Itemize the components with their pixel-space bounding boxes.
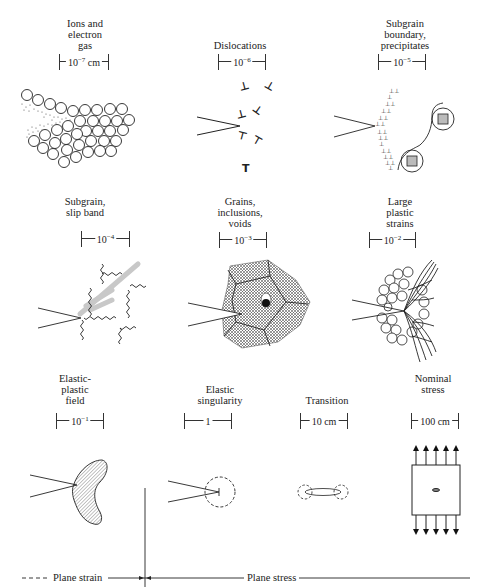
nominal-stress-illustration: [400, 445, 480, 545]
panel-label: Dislocations: [190, 40, 290, 51]
panel-label: Elastic singularity: [170, 384, 270, 406]
svg-text:⊥: ⊥: [235, 107, 248, 122]
scale-bar: 10−3: [219, 232, 267, 246]
panel-label: Large plastic strains: [355, 196, 445, 229]
scale-bar: 10−5: [378, 54, 426, 68]
label-line: stress: [393, 384, 473, 395]
svg-text:⊥: ⊥: [250, 102, 266, 118]
scale-bar: 10−2: [369, 232, 416, 246]
svg-text:⊥⊥: ⊥⊥: [375, 120, 385, 127]
label-line: Subgrain,: [40, 196, 130, 207]
label-line: precipitates: [360, 40, 450, 51]
svg-text:T: T: [242, 162, 250, 175]
plastic-zone-illustration: [0, 460, 160, 550]
label-line: Nominal: [393, 373, 473, 384]
ion-lattice-illustration: [0, 90, 160, 190]
label-line: field: [35, 395, 115, 406]
scale-bar: 100 cm: [411, 413, 459, 427]
label-line: singularity: [170, 395, 270, 406]
large-plastic-illustration: [320, 260, 484, 370]
label-line: strains: [355, 218, 445, 229]
label-line: Large: [355, 196, 445, 207]
svg-text:⊥⊥: ⊥⊥: [385, 100, 395, 107]
panel-label: Ions and electron gas: [40, 18, 130, 51]
label-line: Transition: [287, 395, 367, 406]
label-line: Grains,: [195, 196, 285, 207]
label-line: boundary,: [360, 29, 450, 40]
scale-bar: 1: [184, 413, 232, 427]
panel-label: Transition: [287, 395, 367, 406]
svg-text:⊥: ⊥: [388, 164, 393, 171]
label-line: Elastic-: [35, 373, 115, 384]
label-line: Dislocations: [190, 40, 290, 51]
transition-illustration: [295, 475, 365, 525]
panel-label: Elastic- plastic field: [35, 373, 115, 406]
panel-label: Subgrain, slip band: [40, 196, 130, 218]
label-line: plastic: [35, 384, 115, 395]
scale-bar: 10−7 cm: [59, 54, 109, 68]
label-line: gas: [40, 40, 130, 51]
scale-bar: 10−4: [81, 231, 130, 245]
plane-stress-label: Plane stress: [244, 572, 299, 584]
svg-text:⊥: ⊥: [238, 79, 251, 94]
plane-strain-label: Plane strain: [50, 572, 105, 584]
svg-text:⊥: ⊥: [250, 132, 265, 148]
elastic-singularity-illustration: [160, 460, 260, 530]
panel-label: Subgrain boundary, precipitates: [360, 18, 450, 51]
panel-label: Grains, inclusions, voids: [195, 196, 285, 229]
svg-text:⊥⊥: ⊥⊥: [381, 107, 391, 114]
panel-label: Nominal stress: [393, 373, 473, 395]
label-line: voids: [195, 218, 285, 229]
label-line: inclusions,: [195, 207, 285, 218]
subgrain-precipitate-illustration: ⊥⊥⊥⊥⊥ ⊥⊥⊥⊥⊥⊥ ⊥⊥⊥⊥⊥ ⊥⊥⊥⊥⊥⊥ ⊥: [320, 90, 484, 190]
scale-bar: 10−1: [56, 413, 104, 427]
svg-text:⊥: ⊥: [387, 93, 392, 100]
scale-bar: 10 cm: [300, 413, 348, 427]
grains-illustration: [160, 260, 320, 370]
svg-text:⊥: ⊥: [262, 78, 277, 94]
label-line: Elastic: [170, 384, 270, 395]
label-line: slip band: [40, 207, 130, 218]
svg-text:⊥: ⊥: [379, 140, 384, 147]
label-line: electron: [40, 29, 130, 40]
scale-bar: 10−6: [218, 54, 266, 68]
slip-band-illustration: [0, 260, 160, 370]
label-line: Ions and: [40, 18, 130, 29]
svg-text:⊥: ⊥: [236, 128, 249, 143]
label-line: plastic: [355, 207, 445, 218]
label-line: Subgrain: [360, 18, 450, 29]
